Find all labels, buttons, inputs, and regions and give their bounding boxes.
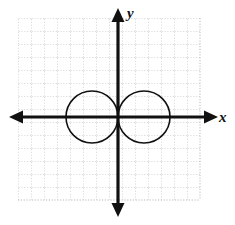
x-axis-arrow-right — [204, 111, 218, 124]
graph-figure: y x — [0, 0, 235, 225]
coordinate-plane-svg — [0, 0, 235, 225]
y-axis-arrow-down — [112, 203, 125, 217]
y-axis-arrow-up — [112, 8, 125, 22]
x-axis-arrow-left — [9, 111, 23, 124]
x-axis-label: x — [219, 110, 227, 125]
y-axis-label: y — [127, 6, 134, 21]
grid-area — [18, 18, 200, 200]
